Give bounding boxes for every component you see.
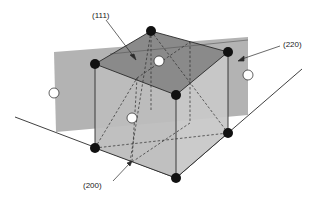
- corner-atom: [146, 26, 156, 36]
- face-atom-220-right: [243, 70, 253, 80]
- corner-atom: [90, 143, 100, 153]
- diagram-canvas: (111) (220) (200): [0, 0, 316, 201]
- face-atom-220-left: [49, 88, 59, 98]
- face-atom-top: [154, 56, 164, 66]
- label-220: (220): [283, 40, 302, 49]
- corner-atom: [223, 47, 233, 57]
- label-111: (111): [92, 11, 110, 20]
- corner-atom: [171, 90, 181, 100]
- label-200: (200): [83, 181, 102, 190]
- corner-atom: [171, 173, 181, 183]
- arrow-200: [113, 163, 130, 181]
- corner-atom: [223, 128, 233, 138]
- face-atom-left: [127, 113, 137, 123]
- crystal-plane-diagram: (111) (220) (200): [0, 0, 316, 201]
- corner-atom: [90, 59, 100, 69]
